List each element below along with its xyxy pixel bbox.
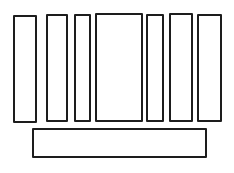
vertical-bar-6	[169, 13, 193, 122]
horizontal-bar	[32, 128, 207, 158]
vertical-bar-1	[13, 15, 37, 123]
vertical-bar-7	[197, 14, 222, 122]
vertical-bar-2	[46, 14, 68, 122]
vertical-bar-4	[95, 13, 143, 122]
vertical-bar-5	[146, 14, 164, 122]
diagram-canvas	[0, 0, 234, 173]
vertical-bar-3	[74, 14, 91, 122]
